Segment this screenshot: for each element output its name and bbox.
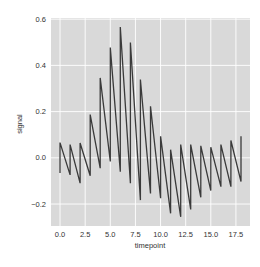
x-tick-label: 7.5	[130, 230, 140, 239]
y-tick-label: 0.4	[36, 61, 46, 70]
x-tick-label: 17.5	[229, 230, 244, 239]
y-tick-labels: −0.20.00.20.40.6	[31, 15, 46, 209]
x-axis-label: timepoint	[135, 241, 166, 250]
y-tick-label: −0.2	[31, 200, 46, 209]
y-tick-label: 0.2	[36, 107, 46, 116]
y-tick-label: 0.0	[36, 153, 46, 162]
x-tick-label: 0.0	[55, 230, 65, 239]
signal-line-chart: 0.02.55.07.510.012.515.017.5 −0.20.00.20…	[0, 0, 260, 267]
x-tick-label: 2.5	[80, 230, 90, 239]
x-tick-label: 12.5	[178, 230, 193, 239]
x-tick-label: 5.0	[105, 230, 115, 239]
x-tick-label: 15.0	[203, 230, 218, 239]
x-tick-labels: 0.02.55.07.510.012.515.017.5	[55, 230, 243, 239]
y-axis-label: signal	[15, 114, 24, 134]
y-tick-label: 0.6	[36, 15, 46, 24]
x-tick-label: 10.0	[153, 230, 168, 239]
